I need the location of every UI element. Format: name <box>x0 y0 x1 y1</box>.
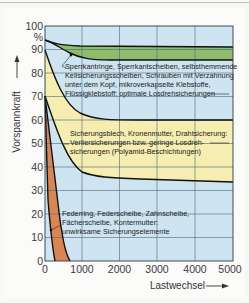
annotation-line: Keilsicherungsscheiben, Schrauben mit Ve… <box>65 71 234 80</box>
annotation-line: sicherungen (Polyamid-Beschichtungen) <box>70 147 201 156</box>
y-tick: 10 <box>31 231 43 243</box>
chart: 0 10 20 30 40 50 60 70 80 90 100 % 0 100… <box>0 0 249 303</box>
y-tick: 40 <box>31 161 43 173</box>
y-tick: 30 <box>31 184 43 196</box>
x-tick: 0 <box>42 263 48 275</box>
x-tick: 3000 <box>145 263 169 275</box>
annotation-line: Flüssigklebstoff: optimale Losdrehsicher… <box>65 89 215 98</box>
y-tick: 70 <box>31 90 43 102</box>
y-axis-label: Vorspannkraft <box>11 91 22 153</box>
x-axis-arrow-icon <box>206 284 229 289</box>
annotation-line: unwirksame Sicherungselemente <box>62 227 169 236</box>
y-unit: % <box>34 31 43 43</box>
x-tick: 5000 <box>218 263 242 275</box>
x-tick-labels: 0 1000 2000 3000 4000 5000 <box>42 263 242 275</box>
y-tick: 60 <box>31 114 43 126</box>
y-tick: 80 <box>31 67 43 79</box>
annotation-line: Sperrkantringe, Sperrkantscheiben, selbs… <box>65 62 237 71</box>
annotation-line: unter dem Kopf, mikroverkapselte Klebsto… <box>65 80 210 89</box>
y-tick: 50 <box>31 137 43 149</box>
annotation-line: Fächerscheibe, Kontermutter: <box>62 218 158 227</box>
annotation-line: Federring, Federscheibe, Zahnscheibe, <box>62 209 189 218</box>
y-axis-arrow-icon <box>15 55 20 78</box>
x-axis-label: Lastwechsel <box>150 280 205 291</box>
x-tick: 4000 <box>183 263 207 275</box>
annotation-line: Verliersicherungen bzw. geringe Losdreh- <box>70 138 205 147</box>
y-tick: 90 <box>31 43 43 55</box>
x-tick: 2000 <box>108 263 132 275</box>
y-tick-labels: 0 10 20 30 40 50 60 70 80 90 100 % <box>25 20 43 267</box>
annotation-line: Sicherungsblech, Kronenmutter, Drahtsich… <box>70 129 227 138</box>
y-tick: 20 <box>31 208 43 220</box>
x-tick: 1000 <box>70 263 94 275</box>
